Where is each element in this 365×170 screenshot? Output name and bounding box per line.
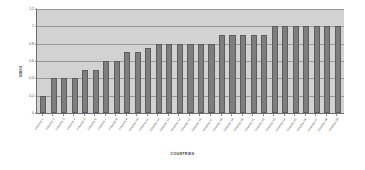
bar[interactable] xyxy=(93,70,99,113)
bars-container xyxy=(37,9,344,113)
y-axis-tick-label: 0.6 xyxy=(29,59,34,63)
bar[interactable] xyxy=(82,70,88,113)
y-axis-tick-label: 0.2 xyxy=(29,94,34,98)
plot-area xyxy=(36,9,344,114)
x-axis-category-label: Country 6 xyxy=(87,118,97,131)
bar[interactable] xyxy=(282,26,288,113)
x-axis-label-slot: Country 18 xyxy=(216,117,227,151)
x-axis-tick-mark xyxy=(326,114,327,116)
y-axis-tick-labels: 1.210.80.60.40.20 xyxy=(23,9,35,113)
x-axis-tick-mark xyxy=(231,114,232,116)
x-axis-category-label: Country 7 xyxy=(98,118,108,131)
x-axis-label-slot: Country 12 xyxy=(153,117,164,151)
bar[interactable] xyxy=(156,44,162,113)
x-axis-category-label: Country 8 xyxy=(108,118,118,131)
bar-slot xyxy=(49,9,60,113)
bar[interactable] xyxy=(314,26,320,113)
x-axis-tick-mark xyxy=(52,114,53,116)
bar-slot xyxy=(101,9,112,113)
x-axis-category-label: Country 3 xyxy=(56,118,66,131)
bar[interactable] xyxy=(198,44,204,113)
x-axis-tick-mark xyxy=(263,114,264,116)
bar[interactable] xyxy=(51,78,57,113)
bar-slot xyxy=(143,9,154,113)
x-axis-tick-mark xyxy=(84,114,85,116)
x-axis-tick-mark xyxy=(284,114,285,116)
bar[interactable] xyxy=(219,35,225,113)
bar[interactable] xyxy=(135,52,141,113)
bar[interactable] xyxy=(166,44,172,113)
bar[interactable] xyxy=(240,35,246,113)
bar[interactable] xyxy=(103,61,109,113)
bar[interactable] xyxy=(261,35,267,113)
x-axis-label-slot: Country 14 xyxy=(174,117,185,151)
x-axis-category-label: Country 4 xyxy=(66,118,76,131)
bar[interactable] xyxy=(187,44,193,113)
bar[interactable] xyxy=(303,26,309,113)
x-axis-label-slot: Country 2 xyxy=(48,117,59,151)
bar-slot xyxy=(175,9,186,113)
bar[interactable] xyxy=(124,52,130,113)
bar[interactable] xyxy=(177,44,183,113)
bar-slot xyxy=(332,9,343,113)
x-axis-tick-mark xyxy=(105,114,106,116)
bar-slot xyxy=(164,9,175,113)
bar-slot xyxy=(322,9,333,113)
bar-slot xyxy=(59,9,70,113)
bar[interactable] xyxy=(145,48,151,113)
x-axis-tick-mark xyxy=(252,114,253,116)
x-axis-category-label: Country 1 xyxy=(35,118,45,131)
x-axis-tick-mark xyxy=(189,114,190,116)
bar-slot xyxy=(206,9,217,113)
bar-slot xyxy=(290,9,301,113)
bar[interactable] xyxy=(40,96,46,113)
x-axis-tick-mark xyxy=(305,114,306,116)
x-axis-title: COUNTRIES xyxy=(0,152,365,156)
bar[interactable] xyxy=(229,35,235,113)
bar-slot xyxy=(112,9,123,113)
x-axis-tick-mark xyxy=(273,114,274,116)
x-axis-label-slot: Country 19 xyxy=(226,117,237,151)
x-axis-tick-mark xyxy=(63,114,64,116)
x-axis-label-slot: Country 10 xyxy=(132,117,143,151)
bar-slot xyxy=(311,9,322,113)
bar[interactable] xyxy=(293,26,299,113)
bar-slot xyxy=(70,9,81,113)
x-axis-label-slot: Country 26 xyxy=(300,117,311,151)
bar[interactable] xyxy=(335,26,341,113)
x-axis-category-label: Country 2 xyxy=(45,118,55,131)
bar-slot xyxy=(248,9,259,113)
x-axis-label-slot: Country 29 xyxy=(331,117,342,151)
bar-slot xyxy=(280,9,291,113)
bar-slot xyxy=(122,9,133,113)
bar[interactable] xyxy=(114,61,120,113)
x-axis-tick-mark xyxy=(221,114,222,116)
x-axis-label-slot: Country 23 xyxy=(268,117,279,151)
x-axis-tick-mark xyxy=(336,114,337,116)
x-axis-label-slot: Country 8 xyxy=(111,117,122,151)
bar[interactable] xyxy=(208,44,214,113)
bar[interactable] xyxy=(272,26,278,113)
y-axis-tick-label: 1.2 xyxy=(29,7,34,11)
bar[interactable] xyxy=(61,78,67,113)
x-axis-label-slot: Country 11 xyxy=(142,117,153,151)
bar-slot xyxy=(269,9,280,113)
x-axis-tick-mark xyxy=(199,114,200,116)
x-axis-tick-mark xyxy=(315,114,316,116)
bar-slot xyxy=(91,9,102,113)
bar[interactable] xyxy=(72,78,78,113)
bar[interactable] xyxy=(251,35,257,113)
bar-slot xyxy=(301,9,312,113)
y-axis-tick-label: 0.8 xyxy=(29,42,34,46)
x-axis-tick-mark xyxy=(242,114,243,116)
x-axis-tick-mark xyxy=(294,114,295,116)
x-axis-label-slot: Country 6 xyxy=(90,117,101,151)
bar[interactable] xyxy=(324,26,330,113)
bar-slot xyxy=(196,9,207,113)
y-axis-tick-label: 0.4 xyxy=(29,76,34,80)
x-axis-label-slot: Country 21 xyxy=(247,117,258,151)
x-axis-tick-mark xyxy=(42,114,43,116)
x-axis-tick-mark xyxy=(210,114,211,116)
x-axis-label-slot: Country 7 xyxy=(100,117,111,151)
x-axis-tick-mark xyxy=(178,114,179,116)
